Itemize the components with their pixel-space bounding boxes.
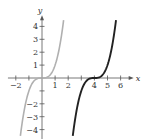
y-tick-label: 3 bbox=[33, 35, 38, 44]
plot-area: −2124564321−2−3−4 x y bbox=[0, 0, 146, 139]
y-tick-label: −4 bbox=[26, 126, 38, 135]
x-axis-label: x bbox=[136, 74, 141, 83]
y-tick-label: 2 bbox=[33, 48, 38, 57]
x-tick-label: 6 bbox=[118, 81, 123, 90]
x-tick-label: 1 bbox=[53, 81, 58, 90]
x-tick-label: 5 bbox=[105, 81, 110, 90]
y-axis-label: y bbox=[37, 6, 43, 15]
x-tick-label: 2 bbox=[66, 81, 71, 90]
x-tick-label: −2 bbox=[10, 81, 22, 90]
y-tick-label: −2 bbox=[26, 100, 38, 109]
y-tick-label: 1 bbox=[33, 61, 38, 70]
y-axis-arrow-icon bbox=[40, 15, 44, 20]
x-axis-arrow-icon bbox=[129, 76, 134, 80]
x-tick-label: 4 bbox=[92, 81, 97, 90]
y-tick-label: 4 bbox=[33, 22, 38, 31]
cubic-functions-chart: −2124564321−2−3−4 x y bbox=[0, 0, 146, 139]
y-tick-label: −3 bbox=[26, 113, 38, 122]
